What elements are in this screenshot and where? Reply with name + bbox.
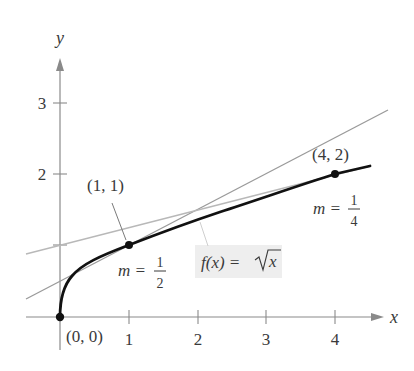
slope-prefix-half: m = [118,261,146,280]
x-tick-label-2: 2 [194,330,203,349]
slope-den-quarter: 4 [351,214,358,229]
slope-label-quarter: m = 1 4 [313,193,360,229]
plot-svg: y x 1 2 3 4 2 3 (0, 0) (1, 1) (4, 2) m =… [0,0,414,371]
y-axis-label: y [54,28,64,48]
figure-sqrt-tangents: y x 1 2 3 4 2 3 (0, 0) (1, 1) (4, 2) m =… [0,0,414,371]
y-tick-label-2: 2 [38,165,47,184]
pointer-line-function [200,222,208,246]
x-tick-label-4: 4 [331,330,340,349]
slope-den-half: 2 [157,276,164,291]
point-label-origin: (0, 0) [66,327,103,346]
x-tick-label-1: 1 [125,330,134,349]
y-tick-label-3: 3 [38,94,47,113]
slope-num-quarter: 1 [351,193,358,208]
pointer-line-1-1 [112,203,126,240]
x-axis-arrow-icon [371,313,384,321]
y-axis-arrow-icon [56,58,64,71]
point-4-2 [331,170,339,178]
slope-prefix-quarter: m = [313,199,341,218]
function-label-prefix: f(x) = [201,253,240,272]
slope-num-half: 1 [157,255,164,270]
x-axis-label: x [389,307,398,327]
slope-label-half: m = 1 2 [118,255,166,291]
function-label-radicand: x [268,252,277,271]
point-label-4-2: (4, 2) [312,145,349,164]
point-1-1 [125,241,133,249]
point-label-1-1: (1, 1) [87,176,124,195]
x-tick-label-3: 3 [262,330,271,349]
point-origin [56,313,64,321]
